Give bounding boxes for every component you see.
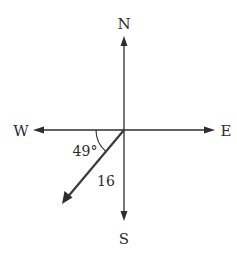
south-label: S xyxy=(119,230,129,248)
north-south-axis xyxy=(121,36,128,221)
magnitude-label: 16 xyxy=(97,173,115,189)
angle-arc xyxy=(96,130,106,152)
north-arrowhead-icon xyxy=(121,36,128,46)
west-arrowhead-icon xyxy=(33,127,44,134)
displacement-vector xyxy=(62,130,124,204)
compass-diagram: N S W E 49° 16 xyxy=(0,0,237,254)
west-label: W xyxy=(13,122,29,140)
angle-label: 49° xyxy=(73,143,98,159)
north-label: N xyxy=(117,15,130,33)
east-arrowhead-icon xyxy=(204,127,215,134)
south-arrowhead-icon xyxy=(121,211,128,221)
east-label: E xyxy=(221,122,232,140)
vector-line xyxy=(66,130,124,199)
